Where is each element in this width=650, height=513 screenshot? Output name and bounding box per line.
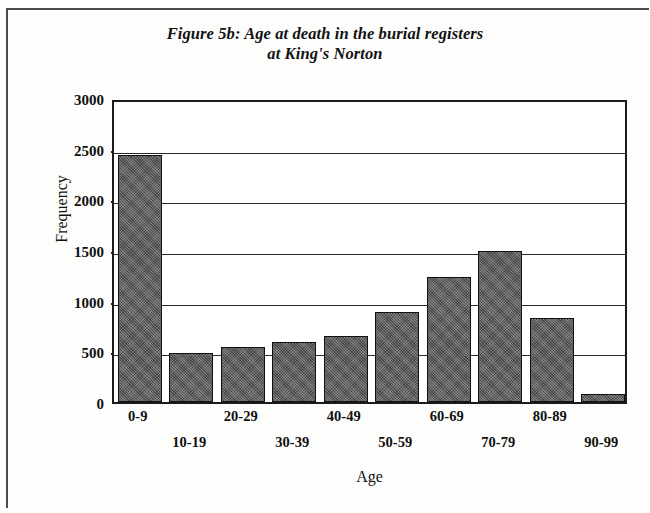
x-tick-label-30-39: 30-39 bbox=[247, 434, 337, 451]
x-tick-label-70-79: 70-79 bbox=[453, 434, 543, 451]
chart-title-line-1: Figure 5b: Age at death in the burial re… bbox=[167, 24, 484, 43]
bar-10-19 bbox=[169, 353, 213, 402]
figure-page: Figure 5b: Age at death in the burial re… bbox=[0, 0, 650, 513]
bar-series bbox=[114, 102, 625, 402]
bar-60-69 bbox=[427, 277, 471, 402]
x-tick-label-0-9: 0-9 bbox=[93, 408, 183, 425]
x-tick-label-40-49: 40-49 bbox=[299, 408, 389, 425]
x-tick-label-20-29: 20-29 bbox=[196, 408, 286, 425]
x-tick-label-60-69: 60-69 bbox=[402, 408, 492, 425]
figure-border-left bbox=[6, 8, 8, 508]
y-tick-label-1500: 1500 bbox=[40, 244, 104, 261]
y-tick-label-2000: 2000 bbox=[40, 193, 104, 210]
x-axis-tick-labels: 0-910-1920-2930-3940-4950-5960-6970-7980… bbox=[112, 408, 627, 464]
y-tick-label-1000: 1000 bbox=[40, 294, 104, 311]
bar-80-89 bbox=[530, 318, 574, 402]
bar-0-9 bbox=[118, 155, 162, 402]
x-tick-label-90-99: 90-99 bbox=[556, 434, 646, 451]
x-axis-title: Age bbox=[112, 468, 627, 486]
y-tick-label-500: 500 bbox=[40, 345, 104, 362]
x-tick-label-50-59: 50-59 bbox=[350, 434, 440, 451]
bar-50-59 bbox=[375, 312, 419, 402]
x-tick-label-80-89: 80-89 bbox=[505, 408, 595, 425]
figure-border-top bbox=[6, 8, 649, 10]
y-tick-label-2500: 2500 bbox=[40, 142, 104, 159]
chart-title-line-2: at King's Norton bbox=[40, 44, 610, 64]
plot-area bbox=[112, 100, 627, 404]
bar-30-39 bbox=[272, 342, 316, 402]
y-tick-label-3000: 3000 bbox=[40, 92, 104, 109]
bar-40-49 bbox=[324, 336, 368, 402]
bar-20-29 bbox=[221, 347, 265, 402]
bar-70-79 bbox=[478, 251, 522, 402]
bar-90-99 bbox=[581, 394, 625, 402]
x-tick-label-10-19: 10-19 bbox=[144, 434, 234, 451]
y-axis-tick-labels: 050010001500200025003000 bbox=[36, 100, 104, 404]
chart-title: Figure 5b: Age at death in the burial re… bbox=[40, 24, 610, 64]
